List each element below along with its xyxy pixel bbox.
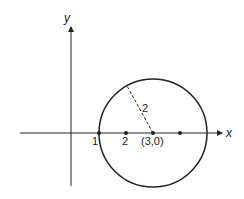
tick-label-2: 2 — [122, 135, 128, 147]
circle-diagram: x y 1 2 (3,0) 2 — [0, 0, 244, 199]
tick-label-1: 1 — [92, 135, 98, 147]
point-4 — [178, 131, 182, 135]
y-axis-label: y — [63, 11, 71, 25]
center-label: (3,0) — [141, 135, 164, 147]
radius-label: 2 — [142, 102, 148, 114]
radius-line — [127, 86, 153, 133]
x-axis-label: x — [225, 126, 233, 140]
